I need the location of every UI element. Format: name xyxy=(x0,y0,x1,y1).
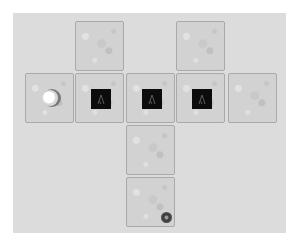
game-board xyxy=(13,13,286,233)
block-tile xyxy=(142,89,162,109)
block-tile xyxy=(192,89,212,109)
tile-r2-c5[interactable] xyxy=(228,73,277,123)
tile-r2-c4[interactable] xyxy=(176,73,225,123)
target-dot-icon xyxy=(161,212,172,223)
player-sphere-icon[interactable] xyxy=(40,87,62,109)
tile-r3-c3[interactable] xyxy=(126,125,175,175)
lambda-arrow-icon xyxy=(147,93,157,105)
lambda-arrow-icon xyxy=(197,93,207,105)
tile-r2-c2[interactable] xyxy=(75,73,124,123)
tile-r2-c1[interactable] xyxy=(25,73,74,123)
block-tile xyxy=(91,89,111,109)
tile-r4-c3[interactable] xyxy=(126,177,175,227)
tile-r2-c3[interactable] xyxy=(126,73,175,123)
tile-r1-c2[interactable] xyxy=(75,21,124,71)
tile-r1-c4[interactable] xyxy=(176,21,225,71)
lambda-arrow-icon xyxy=(96,93,106,105)
